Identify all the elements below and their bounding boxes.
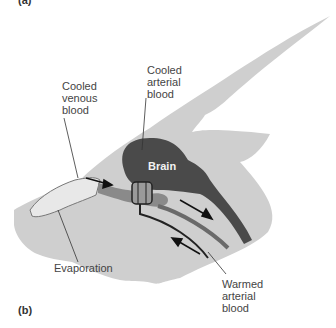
- label-line: arterial: [222, 290, 263, 302]
- panel-label-b: (b): [18, 304, 32, 316]
- label-line: blood: [147, 88, 182, 100]
- label-line: Warmed: [222, 278, 263, 290]
- label-line: arterial: [147, 76, 182, 88]
- label-cooled-arterial-blood: Cooled arterial blood: [147, 64, 182, 100]
- label-evaporation: Evaporation: [54, 262, 113, 274]
- panel-label-a: (a): [18, 0, 31, 6]
- label-line: Cooled: [147, 64, 182, 76]
- carotid-rete: [132, 182, 152, 204]
- label-brain: Brain: [148, 160, 176, 172]
- label-warmed-arterial-blood: Warmed arterial blood: [222, 278, 263, 314]
- label-line: blood: [62, 104, 97, 116]
- label-cooled-venous-blood: Cooled venous blood: [62, 80, 97, 116]
- label-line: venous: [62, 92, 97, 104]
- label-line: blood: [222, 302, 263, 314]
- label-line: Cooled: [62, 80, 97, 92]
